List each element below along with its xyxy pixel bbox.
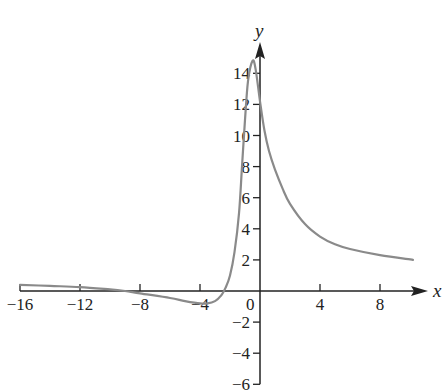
y-tick-label: 4	[242, 220, 251, 239]
x-tick: −16	[7, 284, 34, 314]
y-tick: −2	[232, 313, 260, 332]
x-tick: 8	[376, 284, 385, 314]
y-axis-label: y	[253, 20, 264, 41]
x-tick-label: 4	[316, 295, 325, 314]
y-tick: 8	[242, 158, 261, 177]
y-tick-label: 2	[242, 251, 251, 270]
y-tick-label: 6	[242, 189, 251, 208]
x-tick-label: −16	[7, 295, 34, 314]
y-tick: 4	[242, 220, 261, 239]
x-tick-label: −12	[67, 295, 94, 314]
x-tick: 4	[316, 284, 325, 314]
y-tick: −4	[232, 344, 260, 363]
y-tick: −6	[232, 375, 260, 392]
x-tick: −8	[131, 284, 149, 314]
y-tick-label: −6	[232, 375, 250, 392]
y-tick-label: 10	[233, 127, 250, 146]
y-tick: 10	[233, 127, 260, 146]
x-tick-label: 8	[376, 295, 385, 314]
x-tick-label: −8	[131, 295, 149, 314]
y-tick-label: −4	[232, 344, 251, 363]
x-axis-label: x	[432, 280, 442, 301]
x-ticks: −16−12−8−448	[7, 284, 385, 314]
function-curve	[20, 60, 413, 303]
origin-label: 0	[246, 295, 255, 314]
y-tick: 6	[242, 189, 261, 208]
axes: x y 0 −16−12−8−448 −6−4−22468101214	[7, 20, 442, 392]
y-tick: 2	[242, 251, 261, 270]
chart: x y 0 −16−12−8−448 −6−4−22468101214	[0, 0, 447, 392]
y-tick-label: −2	[232, 313, 250, 332]
x-tick: −4	[191, 284, 210, 314]
